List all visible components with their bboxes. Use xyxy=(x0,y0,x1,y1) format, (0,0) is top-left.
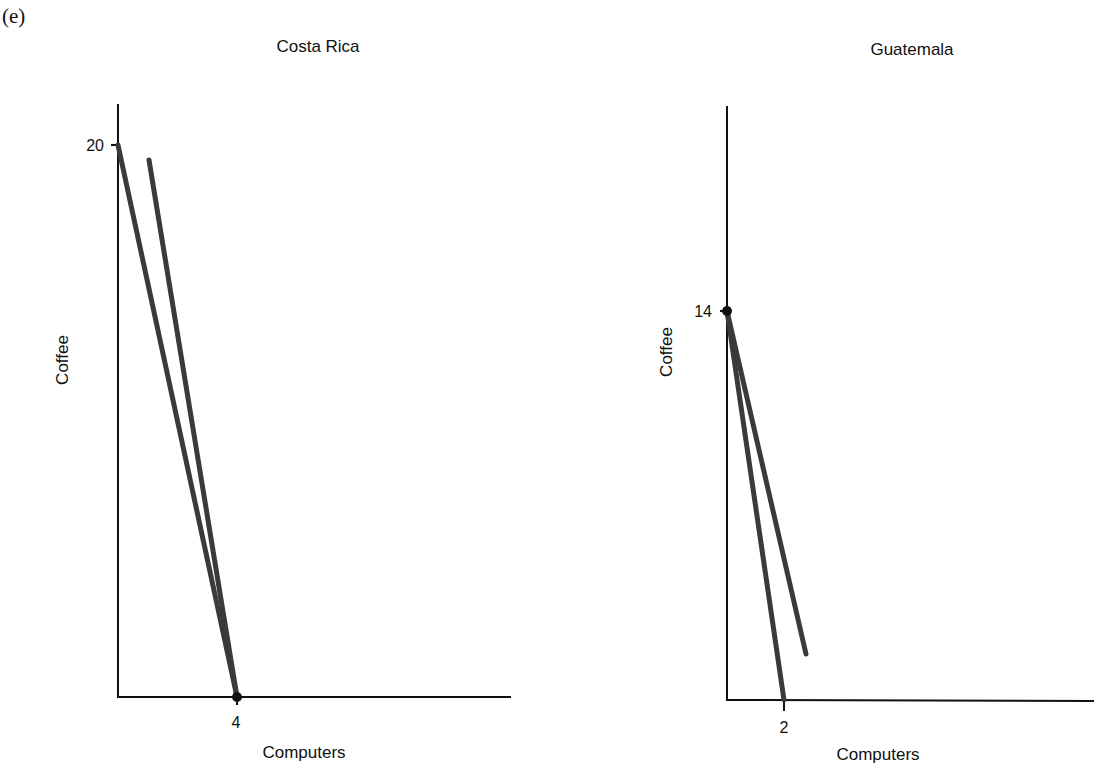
y-tick-label: 20 xyxy=(86,137,104,154)
ppf-line xyxy=(118,145,237,697)
production-point xyxy=(722,306,732,316)
figure-canvas: Costa Rica 20 4 Computers Coffee Guatema… xyxy=(0,0,1111,783)
x-axis xyxy=(726,700,1094,701)
x-tick-label: 2 xyxy=(780,719,789,736)
y-tick-label: 14 xyxy=(694,303,712,320)
chart-costa-rica: Costa Rica 20 4 Computers Coffee xyxy=(53,37,511,762)
ppf-line xyxy=(727,311,784,700)
chart-guatemala: Guatemala 14 2 Computers Coffee xyxy=(657,40,1094,764)
x-axis-label: Computers xyxy=(262,743,345,762)
trade-line xyxy=(149,160,237,697)
chart-title: Costa Rica xyxy=(276,37,360,56)
x-tick-label: 4 xyxy=(232,714,241,731)
chart-title: Guatemala xyxy=(870,40,954,59)
x-axis-label: Computers xyxy=(836,745,919,764)
y-axis-label: Coffee xyxy=(53,335,72,385)
y-axis-label: Coffee xyxy=(657,327,676,377)
trade-line xyxy=(727,311,806,654)
production-point xyxy=(232,692,242,702)
